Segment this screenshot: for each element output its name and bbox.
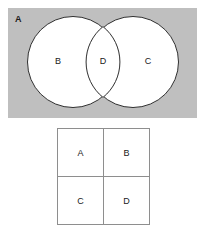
table-row: A B [58, 129, 150, 177]
intersection-label: D [100, 56, 107, 66]
table-row: C D [58, 177, 150, 225]
table-cell-bottom-left: C [58, 177, 104, 225]
table-cell-bottom-right: D [104, 177, 150, 225]
table-cell-top-left: A [58, 129, 104, 177]
venn-diagram-svg: A B D C [8, 8, 197, 118]
two-by-two-table: A B C D [57, 128, 150, 225]
left-set-label: B [55, 56, 61, 66]
venn-diagram-figure: A B D C [8, 8, 197, 118]
right-set-label: C [145, 56, 152, 66]
table-cell-top-right: B [104, 129, 150, 177]
universe-label: A [15, 14, 22, 24]
